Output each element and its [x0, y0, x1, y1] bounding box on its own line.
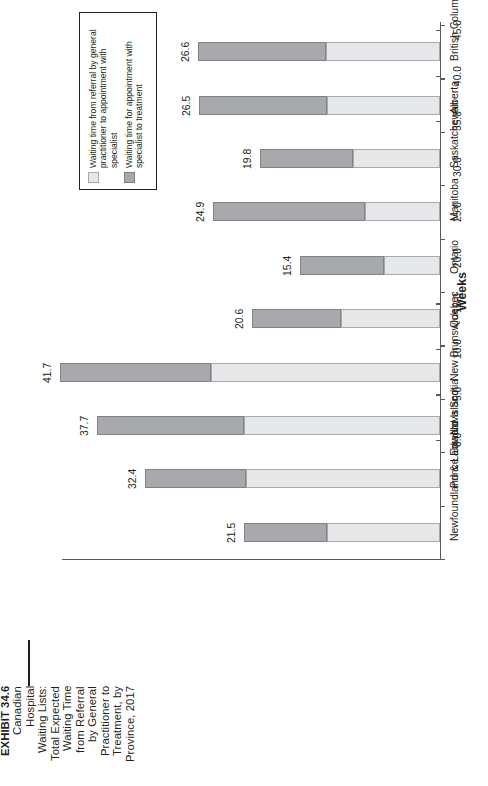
legend-swatch: [124, 172, 135, 183]
value-axis-tick: [436, 76, 441, 77]
exhibit-title-line: Practitioner to: [100, 686, 111, 786]
value-axis-tick: [436, 303, 441, 304]
bar-group[interactable]: 19.8: [0, 149, 488, 168]
bar-total-label: 32.4: [123, 469, 141, 488]
category-axis-tick: [440, 239, 445, 240]
exhibit-title-line: Waiting Time: [62, 686, 73, 786]
value-axis-tick: [436, 394, 441, 395]
bar-group[interactable]: 37.7: [0, 416, 488, 435]
category-label: Manitoba: [449, 203, 460, 221]
bar-segment-specialist-to-treatment[interactable]: [199, 96, 327, 115]
bar-group[interactable]: 26.6: [0, 42, 488, 61]
category-axis-tick: [440, 185, 445, 186]
bar-segment-referral-to-specialist[interactable]: [384, 256, 440, 275]
chart-legend: Waiting time from referral by general pr…: [79, 12, 157, 190]
legend-label: Waiting time for appointment with specia…: [124, 20, 158, 168]
bar-total-label: 24.9: [191, 202, 209, 221]
category-axis-tick: [440, 345, 445, 346]
exhibit-title-line: Waiting Lists:: [37, 686, 48, 786]
bar-segment-referral-to-specialist[interactable]: [353, 149, 440, 168]
category-axis-line: [62, 559, 441, 560]
bar-segment-specialist-to-treatment[interactable]: [300, 256, 384, 275]
bar-segment-specialist-to-treatment[interactable]: [244, 523, 327, 542]
bar-segment-referral-to-specialist[interactable]: [246, 469, 440, 488]
exhibit-title-line: Canadian: [12, 686, 23, 786]
exhibit-title-line: from Referral: [75, 686, 86, 786]
bar-segment-specialist-to-treatment[interactable]: [252, 309, 340, 328]
bar-group[interactable]: 21.5: [0, 523, 488, 542]
bar-total-label: 37.7: [75, 416, 93, 435]
bar-group[interactable]: 24.9: [0, 202, 488, 221]
category-axis-tick: [440, 452, 445, 453]
exhibit-title-block: EXHIBIT 34.6CanadianHospitalWaiting List…: [0, 640, 488, 786]
bar-total-label: 26.6: [176, 42, 194, 61]
bar-segment-specialist-to-treatment[interactable]: [97, 416, 245, 435]
category-axis-tick: [440, 132, 445, 133]
title-divider-rule: [28, 640, 30, 686]
bar-group[interactable]: 32.4: [0, 469, 488, 488]
exhibit-title-line: EXHIBIT 34.6: [0, 686, 11, 786]
bar-segment-specialist-to-treatment[interactable]: [60, 363, 211, 382]
bar-segment-referral-to-specialist[interactable]: [341, 309, 440, 328]
bar-segment-referral-to-specialist[interactable]: [211, 363, 440, 382]
bar-total-label: 19.8: [238, 149, 256, 168]
category-axis-tick: [440, 559, 445, 560]
bar-segment-specialist-to-treatment[interactable]: [145, 469, 246, 488]
bar-group[interactable]: 26.5: [0, 96, 488, 115]
category-label: British Columbia: [449, 43, 460, 61]
category-axis-tick: [440, 25, 445, 26]
legend-entry: Waiting time for appointment with specia…: [124, 19, 158, 185]
category-axis-tick: [440, 292, 445, 293]
exhibit-title-line: Total Expected: [50, 686, 61, 786]
bar-total-label: 41.7: [38, 363, 56, 382]
exhibit-title-line: Province, 2017: [125, 686, 136, 786]
bar-segment-referral-to-specialist[interactable]: [326, 42, 440, 61]
bar-segment-specialist-to-treatment[interactable]: [260, 149, 353, 168]
exhibit-title-line: by General: [87, 686, 98, 786]
category-label: Newfoundland & Labrador: [449, 523, 460, 541]
value-axis-tick: [436, 30, 441, 31]
bar-total-label: 20.6: [230, 309, 248, 328]
chart-canvas: 0.05.010.015.020.025.030.035.040.045.0 W…: [0, 0, 488, 640]
value-axis-tick: [436, 440, 441, 441]
legend-label: Waiting time from referral by general pr…: [88, 20, 122, 168]
bar-total-label: 15.4: [278, 256, 296, 275]
bar-segment-specialist-to-treatment[interactable]: [198, 42, 326, 61]
exhibit-title-lines: EXHIBIT 34.6CanadianHospitalWaiting List…: [0, 686, 240, 786]
value-axis-tick: [436, 121, 441, 122]
bar-segment-referral-to-specialist[interactable]: [327, 96, 440, 115]
category-label: Ontario: [449, 256, 460, 274]
bar-total-label: 21.5: [222, 523, 240, 542]
category-axis-tick: [440, 78, 445, 79]
legend-entry: Waiting time from referral by general pr…: [88, 19, 122, 185]
exhibit-title-line: Treatment, by: [112, 686, 123, 786]
category-label: Saskatchewan: [449, 150, 460, 168]
bar-group[interactable]: 15.4: [0, 256, 488, 275]
category-axis-tick: [440, 399, 445, 400]
bar-segment-specialist-to-treatment[interactable]: [213, 202, 365, 221]
bar-segment-referral-to-specialist[interactable]: [327, 523, 440, 542]
bar-segment-referral-to-specialist[interactable]: [365, 202, 440, 221]
exhibit-title-line: Hospital: [25, 686, 36, 786]
bar-segment-referral-to-specialist[interactable]: [244, 416, 440, 435]
bar-total-label: 26.5: [177, 96, 195, 115]
category-axis-tick: [440, 506, 445, 507]
bar-group[interactable]: 20.6: [0, 309, 488, 328]
value-axis-tick: [436, 349, 441, 350]
bar-group[interactable]: 41.7: [0, 363, 488, 382]
legend-swatch: [88, 172, 99, 183]
